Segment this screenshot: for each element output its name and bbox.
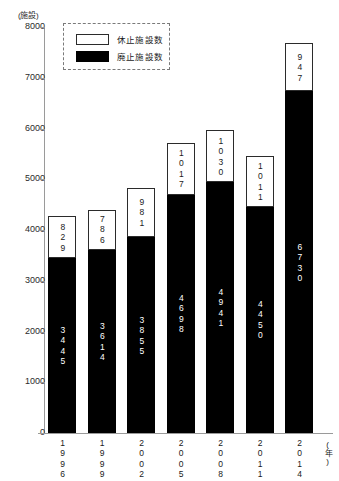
y-tick: 2000 — [0, 332, 45, 333]
bar-value-label: 3855 — [136, 315, 146, 356]
legend-label-abolished: 廃止施設数 — [117, 50, 163, 62]
bar-segment-abolished: 3445 — [48, 258, 76, 433]
bar-group: 44501011 — [246, 156, 274, 433]
legend-swatch-black-icon — [76, 51, 109, 62]
y-tick: 3000 — [0, 281, 45, 282]
y-tick: 6000 — [0, 129, 45, 130]
bar-group: 3614786 — [88, 210, 116, 433]
y-tick: 7000 — [0, 78, 45, 79]
x-axis-label: 2005 — [176, 438, 186, 479]
y-tick-label: 3000 — [11, 275, 45, 285]
bar-segment-suspended: 947 — [285, 43, 313, 91]
bar-segment-suspended: 981 — [127, 188, 155, 238]
x-axis-label: 2014 — [294, 438, 304, 479]
bar-segment-suspended: 1011 — [246, 156, 274, 207]
bar-value-label: 829 — [57, 222, 67, 253]
legend-item-abolished: 廃止施設数 — [76, 50, 163, 62]
y-tick: 5000 — [0, 179, 45, 180]
plot-area: 3445829361478638559814698101749411030445… — [44, 27, 333, 433]
chart-legend: 休止施設数 廃止施設数 — [63, 23, 170, 70]
y-tick: 1000 — [0, 382, 45, 383]
y-tick: 0 — [0, 433, 45, 434]
bar-segment-abolished: 4698 — [167, 195, 195, 433]
bar-value-label: 1017 — [176, 148, 186, 189]
bar-value-label: 3445 — [57, 325, 67, 366]
y-tick-label: 4000 — [11, 224, 45, 234]
x-axis-line — [44, 433, 333, 434]
bar-value-label: 3614 — [97, 321, 107, 362]
bar-value-label: 4450 — [255, 299, 265, 340]
bar-segment-abolished: 3855 — [127, 237, 155, 433]
bar-group: 6730947 — [285, 43, 313, 433]
bar-value-label: 1030 — [215, 136, 225, 177]
bar-value-label: 981 — [136, 197, 146, 228]
x-axis-label: 2008 — [215, 438, 225, 479]
bar-segment-abolished: 6730 — [285, 91, 313, 433]
x-axis-unit-label: (年) — [322, 440, 333, 466]
x-axis-label: 2002 — [136, 438, 146, 479]
legend-item-suspended: 休止施設数 — [76, 33, 163, 45]
bar-group: 3855981 — [127, 188, 155, 433]
y-tick-label: 6000 — [11, 123, 45, 133]
x-axis-label: 1996 — [57, 438, 67, 479]
bar-segment-suspended: 829 — [48, 216, 76, 258]
legend-label-suspended: 休止施設数 — [117, 33, 163, 45]
y-tick-label: 5000 — [11, 173, 45, 183]
y-tick: 4000 — [0, 230, 45, 231]
bar-segment-abolished: 3614 — [88, 250, 116, 433]
bar-segment-suspended: 786 — [88, 210, 116, 250]
bar-segment-suspended: 1030 — [206, 130, 234, 182]
bar-group: 46981017 — [167, 143, 195, 433]
y-tick-label: 1000 — [11, 376, 45, 386]
bar-group: 3445829 — [48, 216, 76, 433]
stacked-bar-chart: (施設) 800070006000500040003000200010000 3… — [0, 0, 339, 481]
bar-group: 49411030 — [206, 130, 234, 433]
x-axis-label: 2011 — [255, 438, 265, 479]
y-tick-label: 8000 — [11, 21, 45, 31]
bar-segment-abolished: 4941 — [206, 182, 234, 433]
y-axis-unit-label: (施設) — [18, 9, 39, 20]
bar-value-label: 6730 — [294, 242, 304, 283]
y-tick-mark — [38, 433, 45, 434]
bar-segment-abolished: 4450 — [246, 207, 274, 433]
bar-value-label: 1011 — [255, 161, 265, 202]
bar-value-label: 4941 — [215, 287, 225, 328]
bar-segment-suspended: 1017 — [167, 143, 195, 195]
y-tick-label: 2000 — [11, 326, 45, 336]
bar-value-label: 786 — [97, 214, 107, 245]
bar-value-label: 4698 — [176, 293, 186, 334]
legend-swatch-white-icon — [76, 34, 109, 45]
bar-value-label: 947 — [294, 52, 304, 83]
x-axis-label: 1999 — [97, 438, 107, 479]
y-tick-label: 7000 — [11, 72, 45, 82]
y-tick-label: 0 — [11, 427, 45, 437]
y-tick: 8000 — [0, 27, 45, 28]
